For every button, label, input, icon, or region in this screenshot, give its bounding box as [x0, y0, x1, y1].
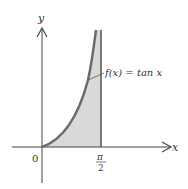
x-tick-numerator: π: [96, 152, 104, 162]
x-tick-denominator: 2: [98, 163, 104, 173]
origin-label: 0: [32, 153, 38, 164]
y-axis-label: y: [37, 12, 45, 25]
tan-area-diagram: y x 0 π 2 f(x) = tan x: [0, 0, 188, 189]
x-axis-label: x: [172, 141, 179, 154]
shaded-area: [42, 30, 101, 147]
function-label: f(x) = tan x: [104, 67, 162, 78]
